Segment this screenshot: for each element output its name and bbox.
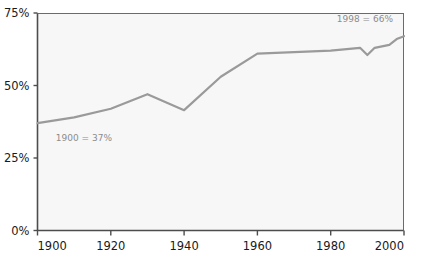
y-tick-label: 50%	[4, 79, 30, 93]
x-tick-label: 1900	[38, 239, 67, 253]
x-axis-ticks: 190019201940196019802000	[38, 231, 405, 253]
chart-container: 0%25%50%75% 190019201940196019802000 190…	[0, 0, 425, 270]
x-tick-label: 1920	[96, 239, 125, 253]
x-tick-label: 1960	[243, 239, 272, 253]
end-annotation: 1998 = 66%	[337, 14, 394, 24]
y-tick-label: 75%	[4, 6, 30, 20]
x-tick-label: 1980	[316, 239, 345, 253]
line-chart: 0%25%50%75% 190019201940196019802000 190…	[0, 0, 425, 270]
y-tick-label: 25%	[4, 151, 30, 165]
start-annotation: 1900 = 37%	[56, 133, 113, 143]
x-tick-label: 1940	[169, 239, 198, 253]
x-tick-label: 2000	[375, 239, 404, 253]
plot-area-background	[37, 13, 404, 231]
y-tick-label: 0%	[11, 224, 29, 238]
y-axis-ticks: 0%25%50%75%	[4, 6, 38, 238]
